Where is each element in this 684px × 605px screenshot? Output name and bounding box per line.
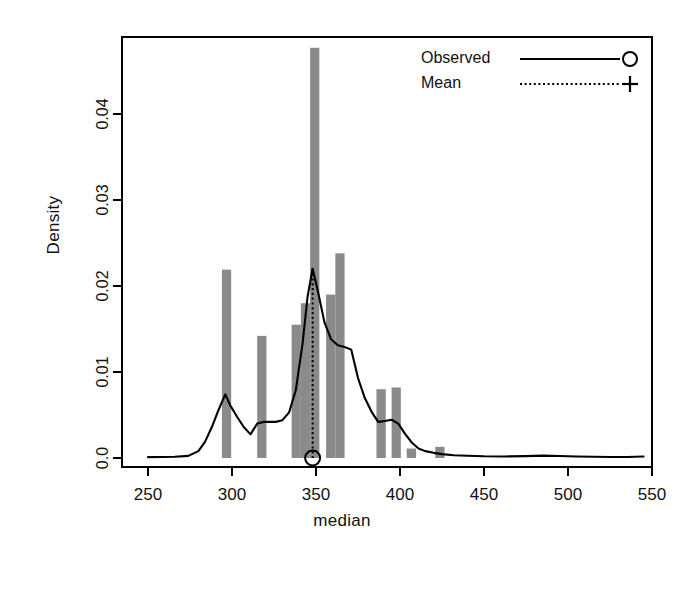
legend-plus-marker [622,76,638,92]
histogram-bar [310,48,319,458]
figure-root: Density median 0.00.010.020.030.04 25030… [0,0,684,605]
histogram-bars [222,48,445,458]
histogram-bar [222,270,231,458]
plot-canvas [0,0,684,605]
histogram-bar [301,303,310,458]
legend-circle-marker [623,52,637,66]
histogram-bar [326,295,335,458]
histogram-bar [376,389,385,458]
histogram-bar [257,336,266,458]
histogram-bar [335,253,344,458]
plot-frame [122,37,652,467]
legend-graphics [520,52,638,92]
histogram-bar [407,449,416,458]
